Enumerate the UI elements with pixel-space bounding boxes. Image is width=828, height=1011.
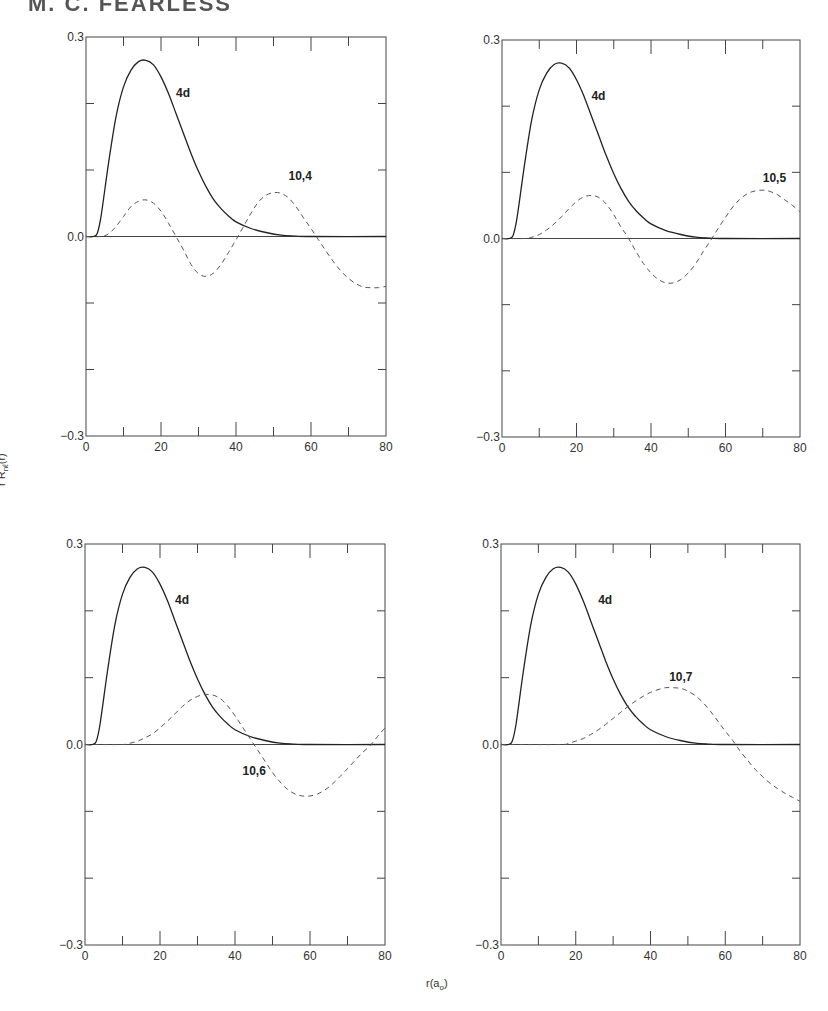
chart-panel-top-left: 020406080−0.30.00.34d10,4 (60, 30, 393, 454)
figure: 020406080−0.30.00.34d10,4020406080−0.30.… (0, 0, 828, 1011)
x-axis-title-tail: ) (444, 977, 448, 989)
x-tick-label: 40 (229, 440, 243, 454)
curve-label: 4d (176, 86, 190, 100)
x-tick-label: 40 (228, 949, 242, 963)
x-tick-label: 20 (154, 440, 168, 454)
x-tick-label: 20 (153, 949, 167, 963)
x-tick-label: 80 (379, 440, 393, 454)
x-tick-label: 60 (719, 949, 733, 963)
y-tick-label: 0.0 (483, 232, 500, 246)
curve-label: 4d (598, 593, 612, 607)
chart-panel-bottom-left: 020406080−0.30.00.34d10,6 (59, 537, 392, 963)
series-4d-curve (501, 567, 800, 745)
series-4d-curve (85, 567, 385, 745)
y-tick-label: −0.3 (59, 938, 83, 952)
x-tick-label: 60 (719, 441, 733, 455)
y-tick-label: −0.3 (475, 938, 499, 952)
curve-label: 10,5 (763, 171, 787, 185)
curve-label: 10,4 (289, 169, 313, 183)
y-tick-label: 0.3 (483, 33, 500, 47)
y-tick-label: 0.0 (482, 738, 499, 752)
y-tick-label: −0.3 (60, 429, 84, 443)
chart-panel-top-right: 020406080−0.30.00.34d10,5 (476, 33, 807, 455)
y-tick-label: 0.3 (482, 537, 499, 551)
y-axis-title-sub: nℓ (1, 464, 10, 471)
y-axis-title-main: r R (0, 471, 7, 486)
x-tick-label: 20 (570, 441, 584, 455)
x-tick-label: 80 (793, 949, 807, 963)
curve-label: 4d (175, 593, 189, 607)
x-tick-label: 40 (644, 949, 658, 963)
y-tick-label: −0.3 (476, 430, 500, 444)
y-tick-label: 0.3 (67, 30, 84, 44)
curve-label: 10,7 (669, 670, 693, 684)
y-tick-label: 0.3 (66, 537, 83, 551)
x-tick-label: 40 (644, 441, 658, 455)
x-tick-label: 60 (304, 440, 318, 454)
curve-label: 4d (591, 89, 605, 103)
x-tick-label: 60 (303, 949, 317, 963)
x-tick-label: 20 (569, 949, 583, 963)
series-10-6-curve (85, 694, 385, 796)
series-4d-curve (86, 60, 386, 237)
y-axis-title: r Rnℓ(r) (0, 453, 10, 486)
chart-panel-bottom-right: 020406080−0.30.00.34d10,7 (475, 537, 807, 963)
curve-label: 10,6 (243, 764, 267, 778)
x-axis-title: r(ao) (426, 977, 448, 992)
series-10-5-curve (502, 190, 800, 283)
y-tick-label: 0.0 (67, 230, 84, 244)
x-axis-title-main: r(a (426, 977, 439, 989)
series-4d-curve (502, 63, 800, 239)
x-tick-label: 80 (793, 441, 807, 455)
series-10-4-curve (86, 192, 386, 287)
y-axis-title-tail: (r) (0, 453, 7, 464)
y-tick-label: 0.0 (66, 738, 83, 752)
x-tick-label: 80 (378, 949, 392, 963)
